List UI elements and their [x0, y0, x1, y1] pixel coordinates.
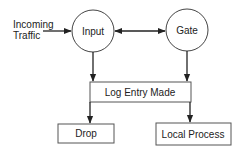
local-process-label: Local Process: [162, 129, 225, 140]
source-label-line1: Incoming: [13, 19, 54, 30]
drop-label: Drop: [75, 128, 97, 139]
gate-label: Gate: [176, 25, 198, 36]
log-label: Log Entry Made: [105, 87, 176, 98]
source-label-line2: Traffic: [13, 30, 40, 41]
input-label: Input: [82, 26, 104, 37]
